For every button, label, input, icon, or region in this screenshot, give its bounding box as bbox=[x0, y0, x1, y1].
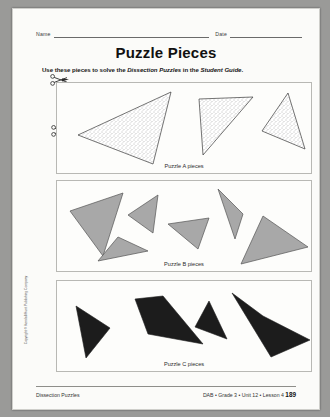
date-label: Date bbox=[215, 31, 227, 38]
piece-b-5 bbox=[218, 189, 243, 239]
piece-c-3 bbox=[195, 301, 227, 339]
piece-b-2 bbox=[128, 195, 158, 233]
puzzle-b-pieces-svg bbox=[57, 181, 311, 271]
piece-c-2 bbox=[135, 296, 203, 344]
puzzle-c-pieces-svg bbox=[57, 281, 311, 371]
instruction-text: Use these pieces to solve the Dissection… bbox=[42, 66, 302, 73]
footer-right-text: DAB • Grade 3 • Unit 12 • Lesson 4 189 bbox=[203, 391, 296, 398]
piece-c-4 bbox=[232, 293, 310, 357]
puzzle-a-label: Puzzle A pieces bbox=[57, 163, 311, 169]
date-input-line[interactable] bbox=[230, 29, 302, 38]
name-input-line[interactable] bbox=[54, 29, 210, 38]
instruction-italic-student-guide: Student Guide bbox=[200, 66, 241, 73]
piece-a-3 bbox=[262, 93, 305, 149]
page-number: 189 bbox=[285, 391, 296, 398]
puzzle-c-label: Puzzle C pieces bbox=[57, 361, 311, 367]
scan-background: Name Date Puzzle Pieces Use these pieces… bbox=[0, 0, 330, 417]
puzzle-b-label: Puzzle B pieces bbox=[57, 261, 311, 267]
piece-b-4 bbox=[168, 218, 209, 249]
footer-divider bbox=[36, 386, 296, 387]
footer: Dissection Puzzles DAB • Grade 3 • Unit … bbox=[36, 391, 296, 398]
instruction-italic-dissection-puzzles: Dissection Puzzles bbox=[127, 66, 181, 73]
copyright-notice: Copyright © Kendall/Hunt Publishing Comp… bbox=[24, 265, 28, 355]
name-label: Name bbox=[36, 31, 51, 38]
instruction-middle: in the bbox=[181, 66, 200, 73]
worksheet-page: Name Date Puzzle Pieces Use these pieces… bbox=[12, 8, 320, 410]
page-title: Puzzle Pieces bbox=[12, 44, 320, 61]
instruction-suffix: . bbox=[241, 66, 243, 73]
piece-c-1 bbox=[76, 306, 110, 358]
name-date-row: Name Date bbox=[36, 26, 302, 38]
puzzle-b-box: Puzzle B pieces bbox=[56, 180, 312, 272]
puzzle-a-box: Puzzle A pieces bbox=[56, 82, 312, 174]
puzzle-c-box: Puzzle C pieces bbox=[56, 280, 312, 372]
piece-a-2 bbox=[199, 97, 253, 155]
footer-left-text: Dissection Puzzles bbox=[36, 392, 80, 398]
piece-b-6 bbox=[241, 216, 308, 264]
instruction-prefix: Use these pieces to solve the bbox=[42, 66, 127, 73]
footer-reference: DAB • Grade 3 • Unit 12 • Lesson 4 bbox=[203, 392, 284, 398]
puzzle-a-pieces-svg bbox=[57, 83, 311, 173]
piece-a-1 bbox=[78, 92, 171, 164]
